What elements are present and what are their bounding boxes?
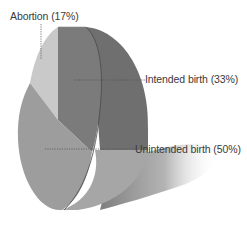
- label-abortion: Abortion (17%): [10, 10, 79, 22]
- label-intended-birth: Intended birth (33%): [145, 73, 238, 85]
- label-unintended-birth: Unintended birth (50%): [135, 143, 241, 155]
- pie-chart: [0, 0, 247, 235]
